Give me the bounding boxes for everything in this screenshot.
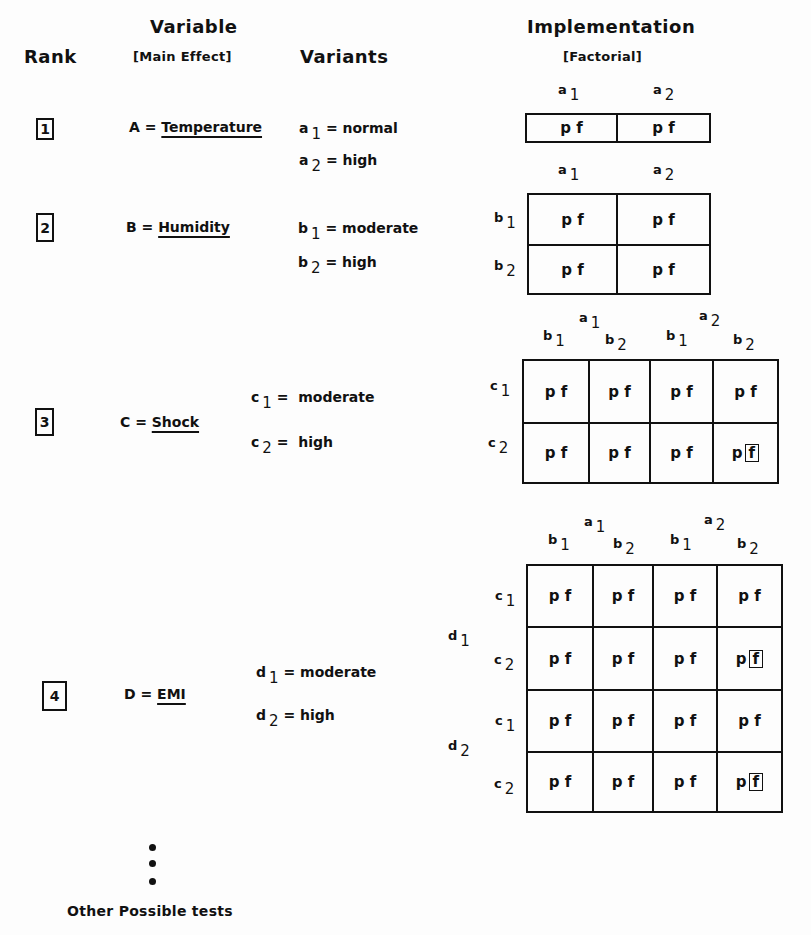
grid-cell: p f [594, 566, 654, 628]
variant-subscript: 2 [269, 712, 279, 730]
grid4-row-label-c1: c1 [495, 711, 515, 729]
boxed-f: f [749, 650, 764, 668]
variant-symbol: d [256, 707, 266, 723]
grid4-row-label-d1: d1 [448, 626, 470, 644]
header-variants: Variants [300, 46, 388, 67]
variable-d: D = EMI [124, 686, 186, 702]
dot-icon [149, 860, 156, 867]
grid-cell-highlighted: pf [714, 424, 777, 482]
variant-a1: a1 = normal [299, 119, 398, 137]
variant-value: = moderate [325, 220, 418, 236]
grid-cell: p f [594, 753, 654, 811]
grid-cell-highlighted: pf [718, 753, 781, 811]
variable-name: EMI [157, 686, 186, 702]
variant-symbol: a [299, 120, 308, 136]
variant-b1: b1 = moderate [298, 219, 418, 237]
grid-cell: p f [654, 691, 718, 753]
dot-icon [149, 878, 156, 885]
grid-cell: p f [590, 361, 651, 424]
grid-cell: p f [528, 566, 594, 628]
grid-cell-highlighted: pf [718, 628, 781, 691]
grid3-col-label-a2: a2 [699, 306, 720, 324]
rank-badge-3: 3 [35, 408, 54, 436]
variable-name: Temperature [161, 119, 262, 135]
variant-d1: d1 = moderate [256, 663, 376, 681]
variant-symbol: b [298, 254, 308, 270]
grid4-col-label-a1: a1 [584, 512, 605, 530]
grid3-row-label-c2: c2 [488, 433, 508, 451]
grid-cell: p f [594, 628, 654, 691]
variable-letter: A = [129, 119, 156, 135]
variant-c1: c1 = moderate [251, 388, 374, 406]
variable-letter: C = [120, 414, 147, 430]
grid3-col-label-a1: a1 [579, 308, 600, 326]
header-implementation-line2: [Factorial] [563, 49, 642, 64]
variant-symbol: c [251, 389, 259, 405]
factorial-grid-3: p f p f p f p f p f p f p f pf [522, 359, 779, 484]
variable-letter: D = [124, 686, 152, 702]
header-variable-line1: Variable [150, 16, 238, 37]
variable-a: A = Temperature [129, 119, 262, 135]
grid3-col-label-b2: b2 [733, 330, 755, 348]
variant-subscript: 1 [311, 225, 321, 243]
variant-c2: c2 = high [251, 433, 333, 451]
dot-icon [149, 844, 156, 851]
grid-cell: p f [718, 566, 781, 628]
grid-cell: p f [654, 628, 718, 691]
variant-value: = moderate [283, 664, 376, 680]
grid4-col-label-a2: a2 [704, 510, 725, 528]
grid4-col-label-b2: b2 [613, 534, 635, 552]
grid-cell: p f [618, 246, 709, 293]
variant-subscript: 1 [262, 394, 272, 412]
grid2-col-label-a1: a1 [558, 160, 579, 178]
grid-cell: p f [527, 115, 618, 141]
grid3-col-label-b1: b1 [543, 326, 565, 344]
grid-cell: p f [529, 195, 618, 246]
grid3-col-label-b2: b2 [605, 330, 627, 348]
grid4-row-label-c2: c2 [494, 774, 514, 792]
grid-cell: p f [529, 246, 618, 293]
variant-value: = high [277, 434, 333, 450]
header-rank: Rank [24, 46, 77, 67]
grid3-col-label-b1: b1 [666, 326, 688, 344]
grid-cell: p f [618, 115, 709, 141]
variant-value: = high [283, 707, 334, 723]
variant-symbol: c [251, 434, 259, 450]
variant-subscript: 1 [311, 125, 321, 143]
rank-badge-2: 2 [36, 213, 54, 242]
variable-name: Shock [152, 414, 199, 430]
variable-letter: B = [126, 219, 153, 235]
grid-cell: p f [524, 361, 590, 424]
grid2-col-label-a2: a2 [653, 160, 674, 178]
cell-p: p [732, 444, 743, 462]
factorial-grid-2: p f p f p f p f [527, 193, 711, 295]
variant-d2: d2 = high [256, 706, 335, 724]
grid4-col-label-b1: b1 [548, 530, 570, 548]
header-variable-line2: [Main Effect] [133, 49, 232, 64]
grid4-row-label-c2: c2 [494, 650, 514, 668]
variable-name: Humidity [158, 219, 230, 235]
grid-cell: p f [524, 424, 590, 482]
grid1-col-label-a1: a1 [558, 80, 579, 98]
grid-cell: p f [654, 566, 718, 628]
grid-cell: p f [618, 195, 709, 246]
variant-symbol: b [298, 220, 308, 236]
grid-cell: p f [654, 753, 718, 811]
grid-cell: p f [718, 691, 781, 753]
grid-cell: p f [714, 361, 777, 424]
factorial-grid-1: p f p f [525, 113, 711, 143]
variant-a2: a2 = high [299, 151, 377, 169]
grid-cell: p f [528, 753, 594, 811]
grid-cell: p f [528, 691, 594, 753]
variant-b2: b2 = high [298, 253, 377, 271]
boxed-f: f [745, 444, 760, 462]
grid-cell: p f [594, 691, 654, 753]
variant-subscript: 1 [269, 669, 279, 687]
rank-badge-1: 1 [36, 118, 54, 140]
other-possible-tests-label: Other Possible tests [67, 903, 233, 919]
variable-c: C = Shock [120, 414, 199, 430]
variant-value: = moderate [277, 389, 375, 405]
grid-cell: p f [528, 628, 594, 691]
grid2-row-label-b2: b2 [494, 256, 516, 274]
grid-cell: p f [651, 424, 714, 482]
